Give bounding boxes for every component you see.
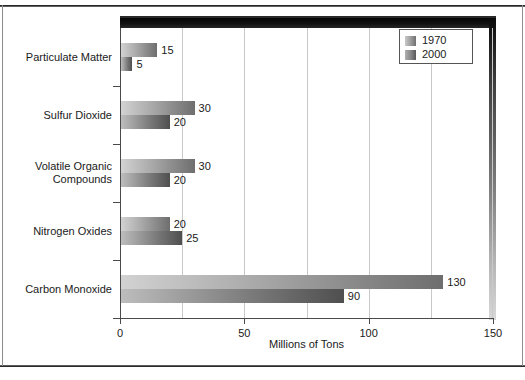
bar-2000 xyxy=(121,115,170,129)
plot-area: 05010015015530203020202513090 xyxy=(120,28,493,318)
legend-item-2000: 2000 xyxy=(405,48,467,61)
bar-value-label: 25 xyxy=(186,232,198,244)
bar-2000 xyxy=(121,173,170,187)
bar-2000 xyxy=(121,57,132,71)
gridline xyxy=(492,28,493,318)
x-axis-line xyxy=(113,318,493,319)
bar-2000 xyxy=(121,231,182,245)
figure-bottom-border xyxy=(0,365,525,367)
bar-1970 xyxy=(121,275,443,289)
category-label: Nitrogen Oxides xyxy=(33,225,112,238)
bar-1970 xyxy=(121,101,195,115)
category-axis-labels: Particulate MatterSulfur DioxideVolatile… xyxy=(0,28,112,318)
bar-value-label: 20 xyxy=(174,116,186,128)
legend-swatch-2000 xyxy=(405,50,416,60)
category-label: Particulate Matter xyxy=(26,51,112,64)
bar-value-label: 30 xyxy=(199,102,211,114)
category-label: Sulfur Dioxide xyxy=(44,109,112,122)
legend-label-1970: 1970 xyxy=(422,35,446,46)
category-label: Carbon Monoxide xyxy=(25,283,112,296)
legend-swatch-1970 xyxy=(405,36,416,46)
bar-value-label: 30 xyxy=(199,160,211,172)
bar-value-label: 130 xyxy=(447,276,465,288)
legend-label-2000: 2000 xyxy=(422,49,446,60)
figure-right-border xyxy=(522,5,523,366)
x-axis-tick xyxy=(244,318,245,324)
x-axis-tick xyxy=(493,318,494,324)
bar-1970 xyxy=(121,159,195,173)
bar-value-label: 5 xyxy=(136,58,142,70)
category-label: Volatile Organic Compounds xyxy=(35,160,112,186)
bar-value-label: 90 xyxy=(348,290,360,302)
chart-figure: Particulate MatterSulfur DioxideVolatile… xyxy=(0,0,525,380)
x-axis-tick xyxy=(120,318,121,324)
bar-1970 xyxy=(121,217,170,231)
figure-top-border xyxy=(0,5,525,7)
plot-frame-top-band xyxy=(120,18,496,28)
legend-item-1970: 1970 xyxy=(405,34,467,47)
x-axis-tick xyxy=(369,318,370,324)
bar-value-label: 15 xyxy=(161,44,173,56)
y-axis-tick xyxy=(113,202,120,203)
bar-value-label: 20 xyxy=(174,218,186,230)
chart-legend: 1970 2000 xyxy=(399,29,473,64)
bar-value-label: 20 xyxy=(174,174,186,186)
y-axis-tick xyxy=(113,260,120,261)
y-axis-tick xyxy=(113,144,120,145)
y-axis-tick xyxy=(113,86,120,87)
x-axis-title: Millions of Tons xyxy=(120,338,493,350)
bar-1970 xyxy=(121,43,157,57)
bar-2000 xyxy=(121,289,344,303)
